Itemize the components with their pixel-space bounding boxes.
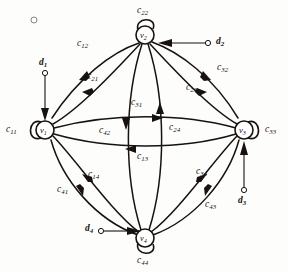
input-d4-terminal[interactable] xyxy=(98,228,103,233)
input-label-d2: d2 xyxy=(216,37,224,48)
edge-label-c41: c41 xyxy=(57,185,68,196)
edge-c31-path xyxy=(54,117,236,128)
node-label-v1: v1 xyxy=(40,126,47,136)
stray-circle-mark xyxy=(31,17,37,23)
edge-label-c23: c23 xyxy=(186,83,197,94)
edge-c32-path xyxy=(152,42,238,118)
self-loop-label-c11: c11 xyxy=(6,125,17,136)
input-d3-terminal[interactable] xyxy=(241,187,246,192)
edge-c21-path xyxy=(53,44,140,124)
input-label-d3: d3 xyxy=(238,196,246,207)
edge-c42-path xyxy=(128,44,142,230)
node-label-v3: v3 xyxy=(239,126,246,136)
graph-canvas xyxy=(0,0,288,272)
edge-c13-path xyxy=(54,134,236,146)
edge-c24-path xyxy=(148,44,162,230)
edge-label-c14: c14 xyxy=(88,170,99,181)
input-label-d1: d1 xyxy=(39,58,47,69)
edge-c24-arrowhead xyxy=(156,102,164,114)
edge-label-c13: c13 xyxy=(137,152,148,163)
node-label-v2: v2 xyxy=(140,31,147,41)
self-loop-label-c33: c33 xyxy=(265,125,276,136)
self-loop-label-c22: c22 xyxy=(137,6,148,17)
input-d3-arrowhead xyxy=(240,141,248,155)
input-d2-terminal[interactable] xyxy=(205,40,210,45)
node-label-v4: v4 xyxy=(140,234,147,244)
edge-label-c42: c42 xyxy=(99,126,110,137)
edge-label-c24: c24 xyxy=(169,123,180,134)
input-d1-arrowhead xyxy=(41,108,49,121)
edge-label-c31: c31 xyxy=(131,98,142,109)
self-loop-label-c44: c44 xyxy=(137,256,148,267)
edge-c43-path xyxy=(153,140,239,235)
input-d1-terminal[interactable] xyxy=(42,70,47,75)
edge-label-c12: c12 xyxy=(77,39,88,50)
edge-c34-path xyxy=(151,136,237,232)
edge-label-c43: c43 xyxy=(205,200,216,211)
graph-figure: v1 v2 v3 v4 c11 c22 c33 c44 d1 d2 d3 d4 … xyxy=(0,0,288,272)
edge-c43-arrowhead xyxy=(204,184,212,196)
edge-label-c21: c21 xyxy=(87,72,98,83)
edge-c21-arrowhead xyxy=(82,88,94,96)
edge-label-c34: c34 xyxy=(196,167,207,178)
input-label-d4: d4 xyxy=(85,224,93,235)
edge-c14-path xyxy=(53,136,139,232)
edge-label-c32: c32 xyxy=(217,63,228,74)
